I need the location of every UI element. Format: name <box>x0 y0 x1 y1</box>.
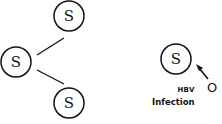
virus-label: HBV <box>177 86 195 94</box>
node-top: S <box>54 1 84 31</box>
diagram-canvas: S S S S O HBV Infection <box>0 0 222 124</box>
arrow-icon <box>196 64 208 79</box>
left-tree: S S S <box>1 1 84 118</box>
node-bottom: S <box>54 88 84 118</box>
agent-label: O <box>207 80 217 95</box>
infected-node: S <box>161 44 191 74</box>
caption-infection: Infection <box>152 97 195 107</box>
node-root: S <box>1 47 31 77</box>
node-root-label: S <box>11 53 21 71</box>
right-infection: S O HBV Infection <box>152 44 217 107</box>
infected-node-label: S <box>171 50 181 68</box>
node-top-label: S <box>64 7 74 25</box>
node-bottom-label: S <box>64 94 74 112</box>
edge-root-top <box>37 38 64 55</box>
edge-root-bottom <box>37 70 64 84</box>
diagram-svg: S S S S O HBV Infection <box>0 0 222 124</box>
